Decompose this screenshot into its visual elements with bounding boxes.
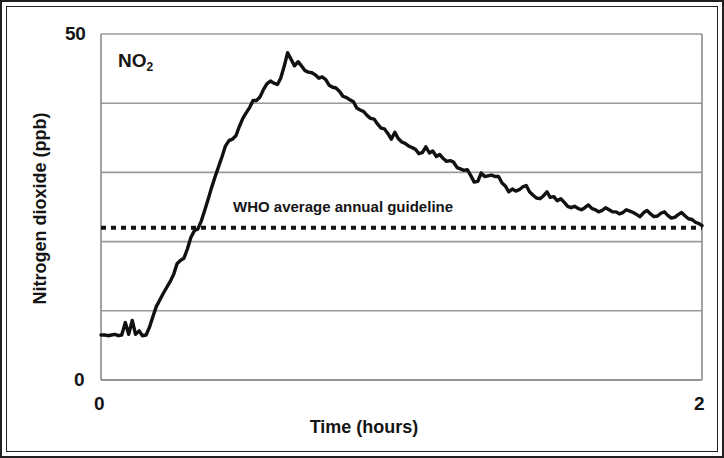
x-axis-tick-min: 0	[94, 394, 104, 413]
y-axis-tick-min: 0	[74, 370, 84, 389]
series-label-text: NO	[118, 50, 147, 71]
figure-frame: 50 0 0 2 Time (hours) Nitrogen dioxide (…	[0, 0, 724, 458]
series-label-no2: NO2	[118, 50, 153, 72]
who-guideline-label: WHO average annual guideline	[233, 198, 453, 215]
x-axis-title: Time (hours)	[2, 417, 724, 438]
x-axis-tick-max: 2	[694, 394, 704, 413]
series-label-subscript: 2	[147, 60, 154, 74]
no2-time-series-chart	[2, 2, 724, 458]
no2-data-line	[101, 53, 702, 336]
y-axis-title: Nitrogen dioxide (ppb)	[30, 59, 51, 359]
y-axis-tick-max: 50	[65, 24, 86, 43]
